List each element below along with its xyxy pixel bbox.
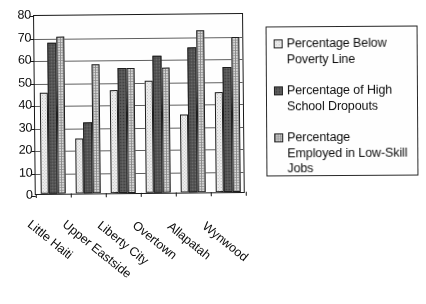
bar bbox=[231, 37, 241, 192]
legend-swatch-lowskill bbox=[274, 133, 283, 142]
x-axis-tickmark bbox=[141, 193, 142, 197]
bar-group bbox=[104, 15, 141, 193]
legend-item: PercentageEmployed in Low-SkillJobs bbox=[274, 130, 413, 177]
x-axis-tickmark bbox=[211, 192, 212, 196]
x-axis-category-labels: Little HaitiUpper EastsideLiberty CityOv… bbox=[0, 216, 268, 302]
bar-group bbox=[34, 16, 71, 194]
chart-legend: Percentage BelowPoverty LinePercentage o… bbox=[266, 26, 419, 177]
plot-area bbox=[33, 13, 245, 195]
bars-layer bbox=[34, 14, 244, 194]
legend-items: Percentage BelowPoverty LinePercentage o… bbox=[274, 36, 414, 193]
grouped-bar-chart: 80706050403020100 Little HaitiUpper East… bbox=[0, 0, 426, 304]
bar bbox=[91, 64, 100, 193]
bar bbox=[196, 30, 206, 192]
y-axis: 80706050403020100 bbox=[7, 15, 33, 195]
legend-swatch-poverty bbox=[274, 39, 283, 48]
x-axis-tickmark bbox=[71, 194, 72, 198]
bar bbox=[56, 36, 66, 194]
legend-label: Percentage of HighSchool Dropouts bbox=[287, 83, 392, 115]
legend-item: Percentage BelowPoverty Line bbox=[274, 36, 413, 68]
bar-group bbox=[139, 15, 176, 193]
bar-group bbox=[209, 14, 246, 192]
plot-block: 80706050403020100 bbox=[7, 13, 249, 215]
bar bbox=[126, 68, 135, 193]
bar bbox=[161, 68, 170, 193]
x-axis-tickmark bbox=[246, 192, 247, 196]
x-axis-tickmark bbox=[176, 193, 177, 197]
x-axis-tickmark bbox=[36, 194, 37, 198]
scanned-figure-canvas: 80706050403020100 Little HaitiUpper East… bbox=[0, 0, 426, 304]
legend-swatch-dropouts bbox=[274, 86, 283, 95]
bar-group bbox=[69, 15, 106, 193]
legend-label: PercentageEmployed in Low-SkillJobs bbox=[287, 130, 407, 177]
legend-label: Percentage BelowPoverty Line bbox=[287, 36, 387, 68]
x-axis-tickmark bbox=[106, 193, 107, 197]
legend-item: Percentage of HighSchool Dropouts bbox=[274, 83, 413, 115]
bar-group bbox=[174, 14, 211, 192]
